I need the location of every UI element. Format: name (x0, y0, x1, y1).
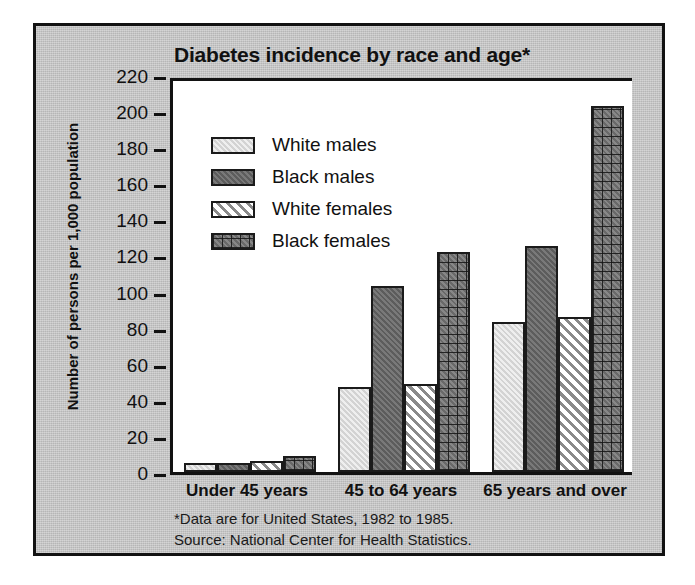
y-axis-tick-mark (154, 366, 166, 369)
x-axis-group-label: 65 years and over (478, 481, 632, 501)
bar (404, 384, 437, 472)
legend-item: White males (211, 132, 392, 158)
y-axis-tick-label: 160 (116, 174, 148, 196)
legend: White malesBlack malesWhite femalesBlack… (211, 132, 392, 260)
bar (217, 463, 250, 472)
legend-label: White females (272, 198, 392, 220)
bar (558, 317, 591, 472)
x-axis-group-label: 45 to 64 years (324, 481, 478, 501)
y-axis-tick-label: 100 (116, 283, 148, 305)
y-axis-tick-mark (154, 185, 166, 188)
bar (492, 322, 525, 472)
y-axis-title: Number of persons per 1,000 population (64, 102, 81, 432)
plot-top-border (170, 78, 632, 81)
y-axis-tick-label: 80 (127, 319, 148, 341)
y-axis-tick-mark (154, 402, 166, 405)
footnote-source: Source: National Center for Health Stati… (174, 531, 472, 548)
y-axis-tick-label: 0 (137, 463, 148, 485)
y-axis-tick-label: 200 (116, 102, 148, 124)
legend-swatch (211, 137, 255, 154)
y-axis-tick-label: 140 (116, 210, 148, 232)
bar (283, 456, 316, 472)
y-axis-tick-label: 180 (116, 138, 148, 160)
legend-item: Black males (211, 164, 392, 190)
bar (591, 106, 624, 472)
legend-item: White females (211, 196, 392, 222)
bar (338, 387, 371, 472)
legend-label: White males (272, 134, 377, 156)
y-axis-tick-mark (154, 149, 166, 152)
y-axis-tick-mark (154, 474, 166, 477)
bar (250, 461, 283, 472)
y-axis-tick-label: 120 (116, 246, 148, 268)
y-axis-tick-label: 60 (127, 355, 148, 377)
legend-item: Black females (211, 228, 392, 254)
x-axis-group-label: Under 45 years (170, 481, 324, 501)
legend-swatch (211, 169, 255, 186)
y-axis-tick-mark (154, 294, 166, 297)
bar (371, 286, 404, 472)
bar (184, 463, 217, 472)
chart-title: Diabetes incidence by race and age* (36, 43, 668, 67)
bar (525, 246, 558, 472)
chart-panel: Diabetes incidence by race and age* Numb… (33, 23, 665, 556)
y-axis-tick-label: 20 (127, 427, 148, 449)
y-axis-tick-label: 40 (127, 391, 148, 413)
y-axis-tick-mark (154, 113, 166, 116)
y-axis-tick-mark (154, 221, 166, 224)
y-axis-tick-mark (154, 257, 166, 260)
legend-swatch (211, 233, 255, 250)
y-axis-tick-label: 220 (116, 66, 148, 88)
bar (437, 252, 470, 472)
y-axis-tick-mark (154, 77, 166, 80)
y-axis-tick-mark (154, 330, 166, 333)
legend-label: Black females (272, 230, 390, 252)
legend-swatch (211, 201, 255, 218)
figure: Diabetes incidence by race and age* Numb… (0, 0, 695, 585)
y-axis-tick-mark (154, 438, 166, 441)
legend-label: Black males (272, 166, 374, 188)
footnote-data-note: *Data are for United States, 1982 to 198… (174, 510, 453, 527)
